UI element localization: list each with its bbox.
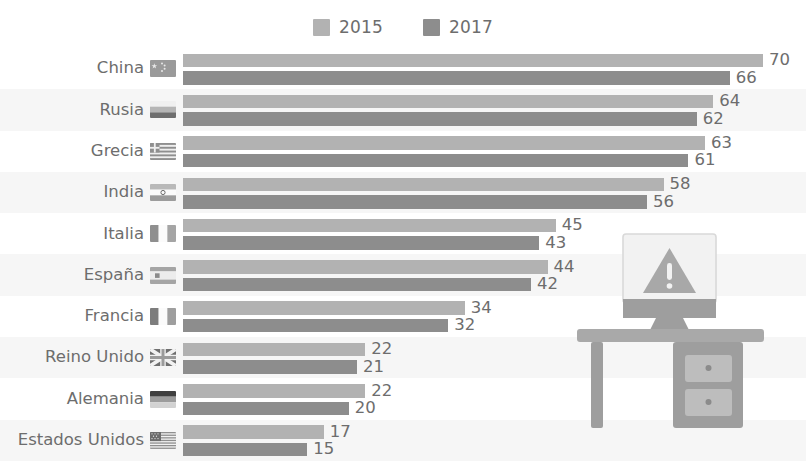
bar-line: 64 <box>183 95 806 109</box>
row-label-zone: Rusia <box>0 101 183 118</box>
chart-row: China7066 <box>0 48 806 89</box>
bar-2015[interactable] <box>183 54 763 68</box>
bar-value-label: 22 <box>371 383 392 400</box>
bar-group: 6462 <box>183 89 806 130</box>
bar-value-label: 56 <box>653 194 674 211</box>
category-label: Reino Unido <box>45 349 144 366</box>
category-label: Grecia <box>91 143 144 160</box>
india-flag <box>150 184 176 201</box>
bar-2017[interactable] <box>183 319 448 333</box>
bar-value-label: 44 <box>554 259 575 276</box>
bar-value-label: 70 <box>769 52 790 69</box>
bar-2015[interactable] <box>183 260 548 274</box>
bar-2015[interactable] <box>183 219 556 233</box>
bar-2017[interactable] <box>183 360 357 374</box>
category-label: Rusia <box>100 102 144 119</box>
chart-container: 2015 2017 China7066Rusia6462Grecia6361In… <box>0 0 806 461</box>
chart-row: Italia4543 <box>0 213 806 254</box>
row-label-zone: Grecia <box>0 143 183 160</box>
legend-item-2015[interactable]: 2015 <box>313 19 383 36</box>
category-label: España <box>84 267 144 284</box>
united-kingdom-flag <box>150 349 176 366</box>
germany-flag <box>150 391 176 408</box>
category-label: Alemania <box>67 391 144 408</box>
bar-group: 2221 <box>183 337 806 378</box>
bar-2015[interactable] <box>183 136 705 150</box>
bar-value-label: 34 <box>471 300 492 317</box>
bar-2017[interactable] <box>183 402 349 416</box>
united-states-flag <box>150 432 176 449</box>
category-label: India <box>104 184 145 201</box>
bar-2017[interactable] <box>183 236 539 250</box>
row-label-zone: Estados Unidos <box>0 432 183 449</box>
chart-row: Francia3432 <box>0 296 806 337</box>
bar-group: 1715 <box>183 420 806 461</box>
bar-group: 2220 <box>183 378 806 419</box>
russia-flag <box>150 101 176 118</box>
bar-rows: China7066Rusia6462Grecia6361India5856Ita… <box>0 48 806 461</box>
bar-group: 5856 <box>183 172 806 213</box>
bar-group: 4442 <box>183 254 806 295</box>
bar-value-label: 66 <box>736 70 757 87</box>
bar-line: 70 <box>183 54 806 68</box>
bar-2017[interactable] <box>183 112 697 126</box>
bar-line: 56 <box>183 195 806 209</box>
bar-2017[interactable] <box>183 278 531 292</box>
chart-row: Rusia6462 <box>0 89 806 130</box>
bar-line: 44 <box>183 260 806 274</box>
bar-2015[interactable] <box>183 384 365 398</box>
chart-row: India5856 <box>0 172 806 213</box>
bar-2015[interactable] <box>183 301 465 315</box>
bar-line: 15 <box>183 443 806 457</box>
bar-line: 22 <box>183 384 806 398</box>
legend-label-2017: 2017 <box>449 19 493 36</box>
legend-swatch-2017 <box>423 19 440 36</box>
bar-value-label: 32 <box>454 317 475 334</box>
bar-value-label: 62 <box>703 111 724 128</box>
bar-line: 58 <box>183 178 806 192</box>
bar-2015[interactable] <box>183 343 365 357</box>
chart-row: Alemania2220 <box>0 378 806 419</box>
bar-line: 45 <box>183 219 806 233</box>
chart-legend: 2015 2017 <box>0 14 806 40</box>
bar-2017[interactable] <box>183 195 647 209</box>
bar-2017[interactable] <box>183 443 307 457</box>
category-label: Italia <box>103 226 144 243</box>
italy-flag <box>150 225 176 242</box>
bar-group: 4543 <box>183 213 806 254</box>
chart-row: Grecia6361 <box>0 131 806 172</box>
bar-value-label: 15 <box>313 441 334 458</box>
bar-2017[interactable] <box>183 71 730 85</box>
chart-row: España4442 <box>0 254 806 295</box>
legend-item-2017[interactable]: 2017 <box>423 19 493 36</box>
legend-swatch-2015 <box>313 19 330 36</box>
bar-2015[interactable] <box>183 425 324 439</box>
bar-value-label: 63 <box>711 135 732 152</box>
category-label: Estados Unidos <box>18 432 144 449</box>
bar-value-label: 58 <box>670 176 691 193</box>
greece-flag <box>150 143 176 160</box>
bar-2015[interactable] <box>183 178 664 192</box>
bar-group: 7066 <box>183 48 806 89</box>
bar-value-label: 20 <box>355 400 376 417</box>
bar-line: 32 <box>183 319 806 333</box>
bar-value-label: 42 <box>537 276 558 293</box>
bar-line: 17 <box>183 425 806 439</box>
bar-value-label: 43 <box>545 235 566 252</box>
bar-value-label: 17 <box>330 424 351 441</box>
row-label-zone: Alemania <box>0 391 183 408</box>
row-label-zone: China <box>0 60 183 77</box>
bar-line: 62 <box>183 112 806 126</box>
france-flag <box>150 308 176 325</box>
bar-2015[interactable] <box>183 95 713 109</box>
bar-value-label: 64 <box>719 93 740 110</box>
bar-2017[interactable] <box>183 154 688 168</box>
bar-line: 34 <box>183 301 806 315</box>
bar-line: 22 <box>183 343 806 357</box>
legend-label-2015: 2015 <box>339 19 383 36</box>
chart-row: Estados Unidos1715 <box>0 420 806 461</box>
row-label-zone: Italia <box>0 225 183 242</box>
bar-value-label: 45 <box>562 217 583 234</box>
bar-line: 63 <box>183 136 806 150</box>
bar-line: 20 <box>183 402 806 416</box>
